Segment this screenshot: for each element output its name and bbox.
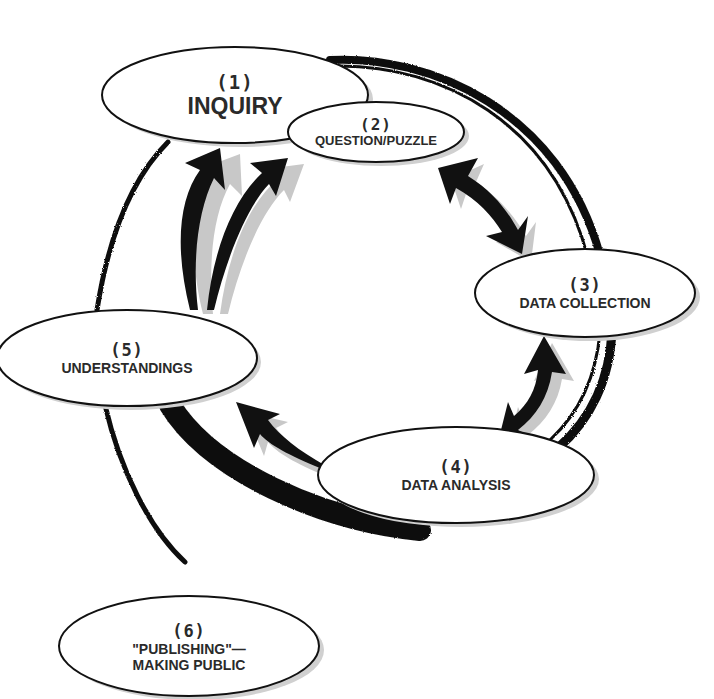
node-number: (2) [360,115,392,134]
double-arrow-question-collection [438,158,536,262]
node-publishing: (6) "PUBLISHING"— MAKING PUBLIC [89,608,289,686]
node-label: QUESTION/PUZZLE [315,134,437,149]
node-data-collection: (3) DATA COLLECTION [495,262,675,324]
node-number: (1) [216,71,253,93]
node-label-line2: MAKING PUBLIC [133,657,246,673]
node-label: DATA ANALYSIS [401,477,510,493]
node-label: INQUIRY [188,93,283,119]
node-question-puzzle: (2) QUESTION/PUZZLE [296,108,456,156]
node-number: (3) [568,275,602,295]
node-understandings: (5) UNDERSTANDINGS [27,327,227,389]
node-number: (4) [439,457,473,477]
node-label: UNDERSTANDINGS [61,360,192,376]
node-data-analysis: (4) DATA ANALYSIS [356,444,556,506]
node-number: (5) [110,340,144,360]
node-label-line1: "PUBLISHING"— [132,641,246,657]
node-label: DATA COLLECTION [519,295,650,311]
inquiry-cycle-diagram: (1) INQUIRY (2) QUESTION/PUZZLE (3) DATA… [0,0,714,699]
node-number: (6) [172,621,206,641]
